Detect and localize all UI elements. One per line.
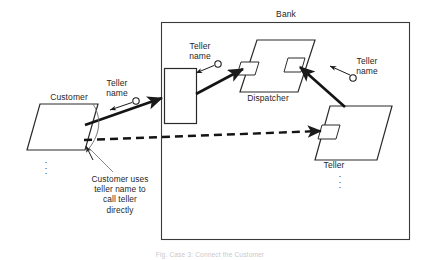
teller-node-label: Teller	[324, 160, 345, 170]
interface-node[interactable]	[165, 69, 197, 124]
customer-node-label: Customer	[50, 92, 88, 102]
teller-name-pointer-right	[330, 66, 350, 75]
edge-customer-to-teller-direct	[84, 131, 321, 140]
teller-port[interactable]	[318, 125, 340, 139]
teller-name-label-right: Teller name	[356, 56, 378, 76]
edge-interface-to-dispatcher	[196, 69, 243, 94]
figure-caption: Fig. Case 3: Connect the Customer	[156, 250, 264, 260]
bank-boundary-label: Bank	[276, 9, 296, 19]
dispatcher-port-left[interactable]	[237, 62, 259, 75]
annotation-text: Customer uses teller name to call teller…	[91, 174, 148, 215]
teller-name-label-middle: Teller name	[189, 41, 211, 61]
teller-ellipsis: ...	[338, 172, 342, 189]
teller-name-pointer-middle	[196, 66, 214, 74]
customer-node[interactable]	[27, 104, 98, 150]
teller-name-token-left	[133, 98, 139, 104]
teller-name-token-middle	[215, 61, 221, 67]
edge-teller-to-dispatcher	[300, 67, 345, 107]
teller-name-label-left: Teller name	[106, 78, 128, 98]
dispatcher-node-label: Dispatcher	[247, 93, 289, 103]
customer-ellipsis: ...	[44, 158, 48, 175]
